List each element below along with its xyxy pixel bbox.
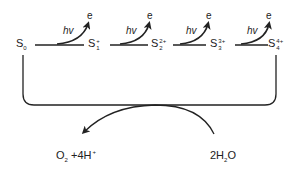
photon-label-3: hv xyxy=(186,26,197,36)
state-s0: S0 xyxy=(16,38,27,49)
photon-label-2: hv xyxy=(126,26,137,36)
return-loop xyxy=(23,55,276,105)
reactant-label: 2H2O xyxy=(210,150,236,161)
water-oxidation-arrow xyxy=(84,105,214,134)
electron-label-1: e xyxy=(87,11,93,21)
electron-label-4: e xyxy=(266,11,272,21)
state-s4: S4+4 xyxy=(268,38,283,52)
state-s3: S3+3 xyxy=(210,38,225,52)
state-s1: S+1 xyxy=(88,38,100,52)
photon-label-1: hv xyxy=(63,26,74,36)
state-s2: S2+2 xyxy=(151,38,166,52)
photon-label-4: hv xyxy=(247,26,258,36)
product-label: O2 +4H+ xyxy=(56,150,96,161)
electron-label-2: e xyxy=(147,11,153,21)
electron-label-3: e xyxy=(206,11,212,21)
